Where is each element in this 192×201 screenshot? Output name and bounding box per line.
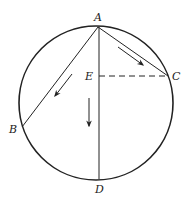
- label-d: D: [94, 183, 104, 196]
- label-b: B: [8, 123, 17, 136]
- label-e: E: [84, 70, 93, 83]
- chord-ac: [98, 27, 168, 76]
- circle-chord-diagram: A B C D E: [0, 0, 192, 201]
- arrow-along-ab-icon: [55, 74, 72, 96]
- label-c: C: [172, 70, 181, 83]
- circle: [19, 26, 173, 180]
- label-a: A: [93, 11, 102, 24]
